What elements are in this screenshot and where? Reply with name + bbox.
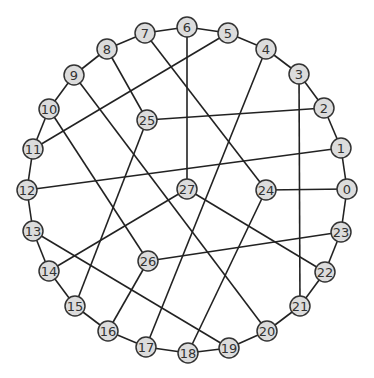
node-1: 1 (331, 138, 351, 158)
node-label: 20 (259, 324, 276, 339)
node-17: 17 (136, 337, 156, 357)
node-label: 2 (320, 101, 328, 116)
node-15: 15 (65, 296, 85, 316)
node-6: 6 (177, 17, 197, 37)
node-25: 25 (137, 110, 157, 130)
node-label: 1 (337, 141, 345, 156)
node-13: 13 (23, 221, 43, 241)
node-label: 12 (19, 183, 36, 198)
node-23: 23 (331, 222, 351, 242)
node-4: 4 (256, 39, 276, 59)
node-8: 8 (97, 39, 117, 59)
node-9: 9 (64, 65, 84, 85)
node-19: 19 (219, 338, 239, 358)
node-label: 24 (258, 183, 275, 198)
node-label: 4 (262, 42, 270, 57)
node-10: 10 (39, 99, 59, 119)
node-22: 22 (315, 262, 335, 282)
node-27: 27 (177, 179, 197, 199)
edge-4-17 (146, 49, 266, 347)
node-21: 21 (290, 296, 310, 316)
node-label: 17 (138, 340, 155, 355)
node-label: 3 (295, 67, 303, 82)
node-18: 18 (178, 343, 198, 363)
node-label: 15 (67, 299, 84, 314)
node-label: 13 (25, 224, 42, 239)
node-label: 18 (180, 346, 197, 361)
node-label: 0 (343, 182, 351, 197)
node-label: 19 (221, 341, 238, 356)
edge-25-2 (147, 108, 324, 120)
node-0: 0 (337, 179, 357, 199)
node-label: 9 (70, 68, 78, 83)
node-label: 10 (41, 102, 58, 117)
node-5: 5 (218, 23, 238, 43)
node-label: 23 (333, 225, 350, 240)
edge-24-0 (266, 189, 347, 190)
node-12: 12 (17, 180, 37, 200)
node-label: 27 (179, 182, 196, 197)
node-3: 3 (289, 64, 309, 84)
graph-canvas: 0123456789101112131415161718192021222324… (0, 0, 374, 378)
node-label: 8 (103, 42, 111, 57)
node-label: 6 (183, 20, 191, 35)
node-label: 26 (140, 254, 157, 269)
node-label: 14 (41, 264, 58, 279)
node-24: 24 (256, 180, 276, 200)
node-11: 11 (23, 139, 43, 159)
node-label: 21 (292, 299, 309, 314)
node-label: 5 (224, 26, 232, 41)
edge-3-21 (299, 74, 300, 306)
node-20: 20 (257, 321, 277, 341)
node-7: 7 (135, 23, 155, 43)
node-16: 16 (98, 321, 118, 341)
node-2: 2 (314, 98, 334, 118)
node-label: 7 (141, 26, 149, 41)
node-label: 11 (25, 142, 42, 157)
node-26: 26 (138, 251, 158, 271)
node-label: 25 (139, 113, 156, 128)
node-label: 16 (100, 324, 117, 339)
edge-27-22 (187, 189, 325, 272)
node-14: 14 (39, 261, 59, 281)
node-label: 22 (317, 265, 334, 280)
